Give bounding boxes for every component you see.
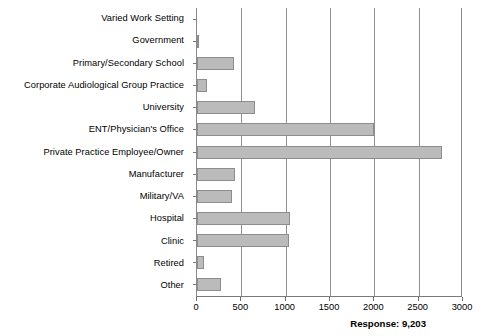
value-axis-ticks: 050010001500200025003000 (196, 297, 462, 302)
axis-tick-mark (196, 297, 197, 301)
bar-chart: Varied Work SettingGovernmentPrimary/Sec… (0, 0, 482, 336)
category-tick-mark (193, 107, 197, 108)
bar (197, 101, 255, 114)
category-label: Clinic (0, 230, 190, 252)
response-total-label: Response: 9,203 (268, 318, 426, 329)
bar (197, 168, 235, 181)
axis-tick-mark (240, 297, 241, 301)
axis-tick-mark (285, 297, 286, 301)
axis-tick-label: 3000 (452, 302, 473, 312)
bar-row (197, 141, 461, 163)
bar (197, 79, 207, 92)
category-label: ENT/Physician's Office (0, 119, 190, 141)
category-label: Primary/Secondary School (0, 52, 190, 74)
bar-row (197, 274, 461, 296)
bar-row (197, 119, 461, 141)
category-tick-mark (193, 85, 197, 86)
bar (197, 123, 374, 136)
bar-row (197, 185, 461, 207)
category-tick-mark (193, 262, 197, 263)
bar-series (197, 8, 461, 296)
category-label: University (0, 97, 190, 119)
bar (197, 190, 232, 203)
category-tick-mark (193, 240, 197, 241)
axis-tick-mark (373, 297, 374, 301)
axis-tick-label: 1000 (274, 302, 295, 312)
category-label: Government (0, 30, 190, 52)
category-label: Other (0, 275, 190, 297)
plot-area (196, 8, 462, 297)
axis-tick-label: 2500 (407, 302, 428, 312)
category-label: Varied Work Setting (0, 8, 190, 30)
bar (197, 57, 234, 70)
category-tick-mark (193, 196, 197, 197)
category-label: Manufacturer (0, 164, 190, 186)
bar-row (197, 97, 461, 119)
bar (197, 234, 289, 247)
bar-row (197, 52, 461, 74)
bar (197, 256, 204, 269)
category-label: Private Practice Employee/Owner (0, 141, 190, 163)
category-tick-mark (193, 19, 197, 20)
axis-tick-label: 1500 (319, 302, 340, 312)
category-tick-mark (193, 174, 197, 175)
category-label: Hospital (0, 208, 190, 230)
category-tick-mark (193, 41, 197, 42)
bar (197, 35, 199, 48)
axis-tick-label: 2000 (363, 302, 384, 312)
category-label: Corporate Audiological Group Practice (0, 75, 190, 97)
bar-row (197, 74, 461, 96)
category-axis-labels: Varied Work SettingGovernmentPrimary/Sec… (0, 8, 190, 297)
bar-row (197, 207, 461, 229)
axis-tick-mark (329, 297, 330, 301)
axis-tick-label: 500 (233, 302, 249, 312)
category-tick-mark (193, 284, 197, 285)
bar-row (197, 230, 461, 252)
bar-row (197, 252, 461, 274)
category-tick-mark (193, 152, 197, 153)
bar-row (197, 163, 461, 185)
axis-tick-mark (462, 297, 463, 301)
bar (197, 278, 221, 291)
category-label: Military/VA (0, 186, 190, 208)
category-tick-mark (193, 218, 197, 219)
category-label: Retired (0, 253, 190, 275)
axis-tick-label: 0 (193, 302, 198, 312)
category-tick-mark (193, 63, 197, 64)
bar (197, 212, 290, 225)
bar-row (197, 8, 461, 30)
axis-tick-mark (418, 297, 419, 301)
bar (197, 146, 442, 159)
bar-row (197, 30, 461, 52)
category-tick-mark (193, 129, 197, 130)
